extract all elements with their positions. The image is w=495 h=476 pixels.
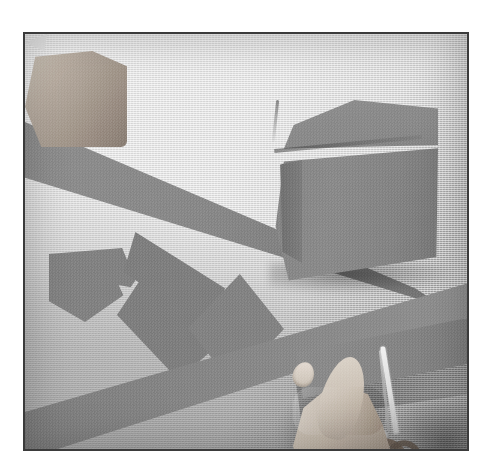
hand-left-knuckles: [293, 387, 385, 435]
hand-left: [293, 362, 405, 449]
hand-left-thumbnail: [290, 359, 318, 389]
hand-right-fist: [25, 51, 127, 147]
screenshot-root: [0, 0, 495, 476]
photograph: [25, 34, 467, 449]
photograph-frame: [23, 32, 469, 451]
hand-right: [25, 51, 127, 153]
gift-box: [274, 100, 438, 285]
